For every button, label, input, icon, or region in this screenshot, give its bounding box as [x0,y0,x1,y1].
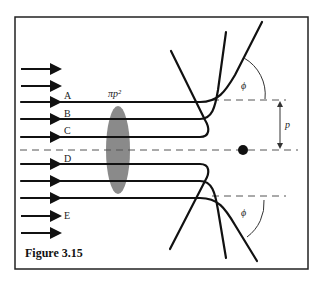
figure-caption: Figure 3.15 [25,246,83,260]
label-d: D [64,153,71,164]
impact-parameter-label: p [284,119,290,130]
label-e: E [64,210,70,221]
scattering-diagram: A B C D E πp² p ϕ ϕ Figure 3.15 [0,0,325,287]
figure-frame [15,17,308,269]
label-b: B [64,108,71,119]
lower-angle-label: ϕ [241,207,246,218]
lower-angle-arc [247,200,264,237]
area-label: πp² [108,88,122,99]
scattering-center [238,145,248,155]
trajectory-b [21,32,226,119]
label-a: A [64,90,72,101]
label-c: C [64,125,71,136]
upper-angle-label: ϕ [241,80,246,91]
upper-angle-arc [244,58,265,99]
